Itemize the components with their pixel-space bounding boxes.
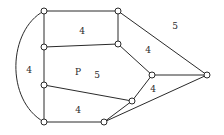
face-label-left-arc: 4	[26, 65, 32, 75]
edge-B-H	[118, 11, 207, 75]
face-label-center-name: P	[75, 67, 81, 77]
face-label-right-lower: 4	[150, 84, 156, 94]
node-F	[41, 119, 47, 125]
face-label-right-upper: 4	[145, 45, 151, 55]
face-label-center: 5	[94, 70, 100, 80]
node-A	[41, 8, 47, 14]
face-label-top: 4	[79, 26, 85, 36]
edge-C-D	[44, 44, 118, 47]
node-E	[41, 82, 47, 88]
edge-E-I	[44, 85, 132, 101]
nodes	[41, 8, 210, 125]
node-B	[115, 8, 121, 14]
node-J	[101, 119, 107, 125]
node-C	[41, 44, 47, 50]
face-labels: 4 5 4 4 P 5 4 4	[26, 21, 178, 115]
face-label-bottom: 4	[75, 105, 81, 115]
edges	[16, 11, 207, 122]
edge-G-I	[132, 75, 152, 101]
face-label-outer: 5	[172, 21, 178, 31]
node-G	[149, 72, 155, 78]
node-D	[115, 41, 121, 47]
planar-graph-diagram: 4 5 4 4 P 5 4 4	[0, 0, 224, 135]
node-H	[204, 72, 210, 78]
node-I	[129, 98, 135, 104]
